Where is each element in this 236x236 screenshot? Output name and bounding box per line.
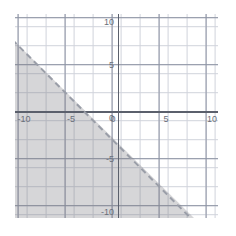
x-tick-label-neg5: -5: [67, 114, 75, 124]
y-tick-label-neg10: -10: [96, 207, 114, 217]
y-axis-line: [118, 14, 119, 218]
graph-canvas: -10 -5 0 5 10 10 5 0 -5 -10: [0, 0, 236, 236]
y-tick-label-zero: 0: [98, 113, 114, 123]
x-tick-label-neg10: -10: [17, 114, 30, 124]
y-tick-label-pos5: 5: [98, 60, 114, 70]
x-axis-line: [15, 111, 218, 112]
x-tick-label-pos10: 10: [207, 114, 217, 124]
x-tick-label-pos5: 5: [163, 114, 168, 124]
y-tick-label-pos10: 10: [98, 17, 114, 27]
plot-area: [15, 14, 218, 218]
y-tick-label-neg5: -5: [98, 154, 114, 164]
